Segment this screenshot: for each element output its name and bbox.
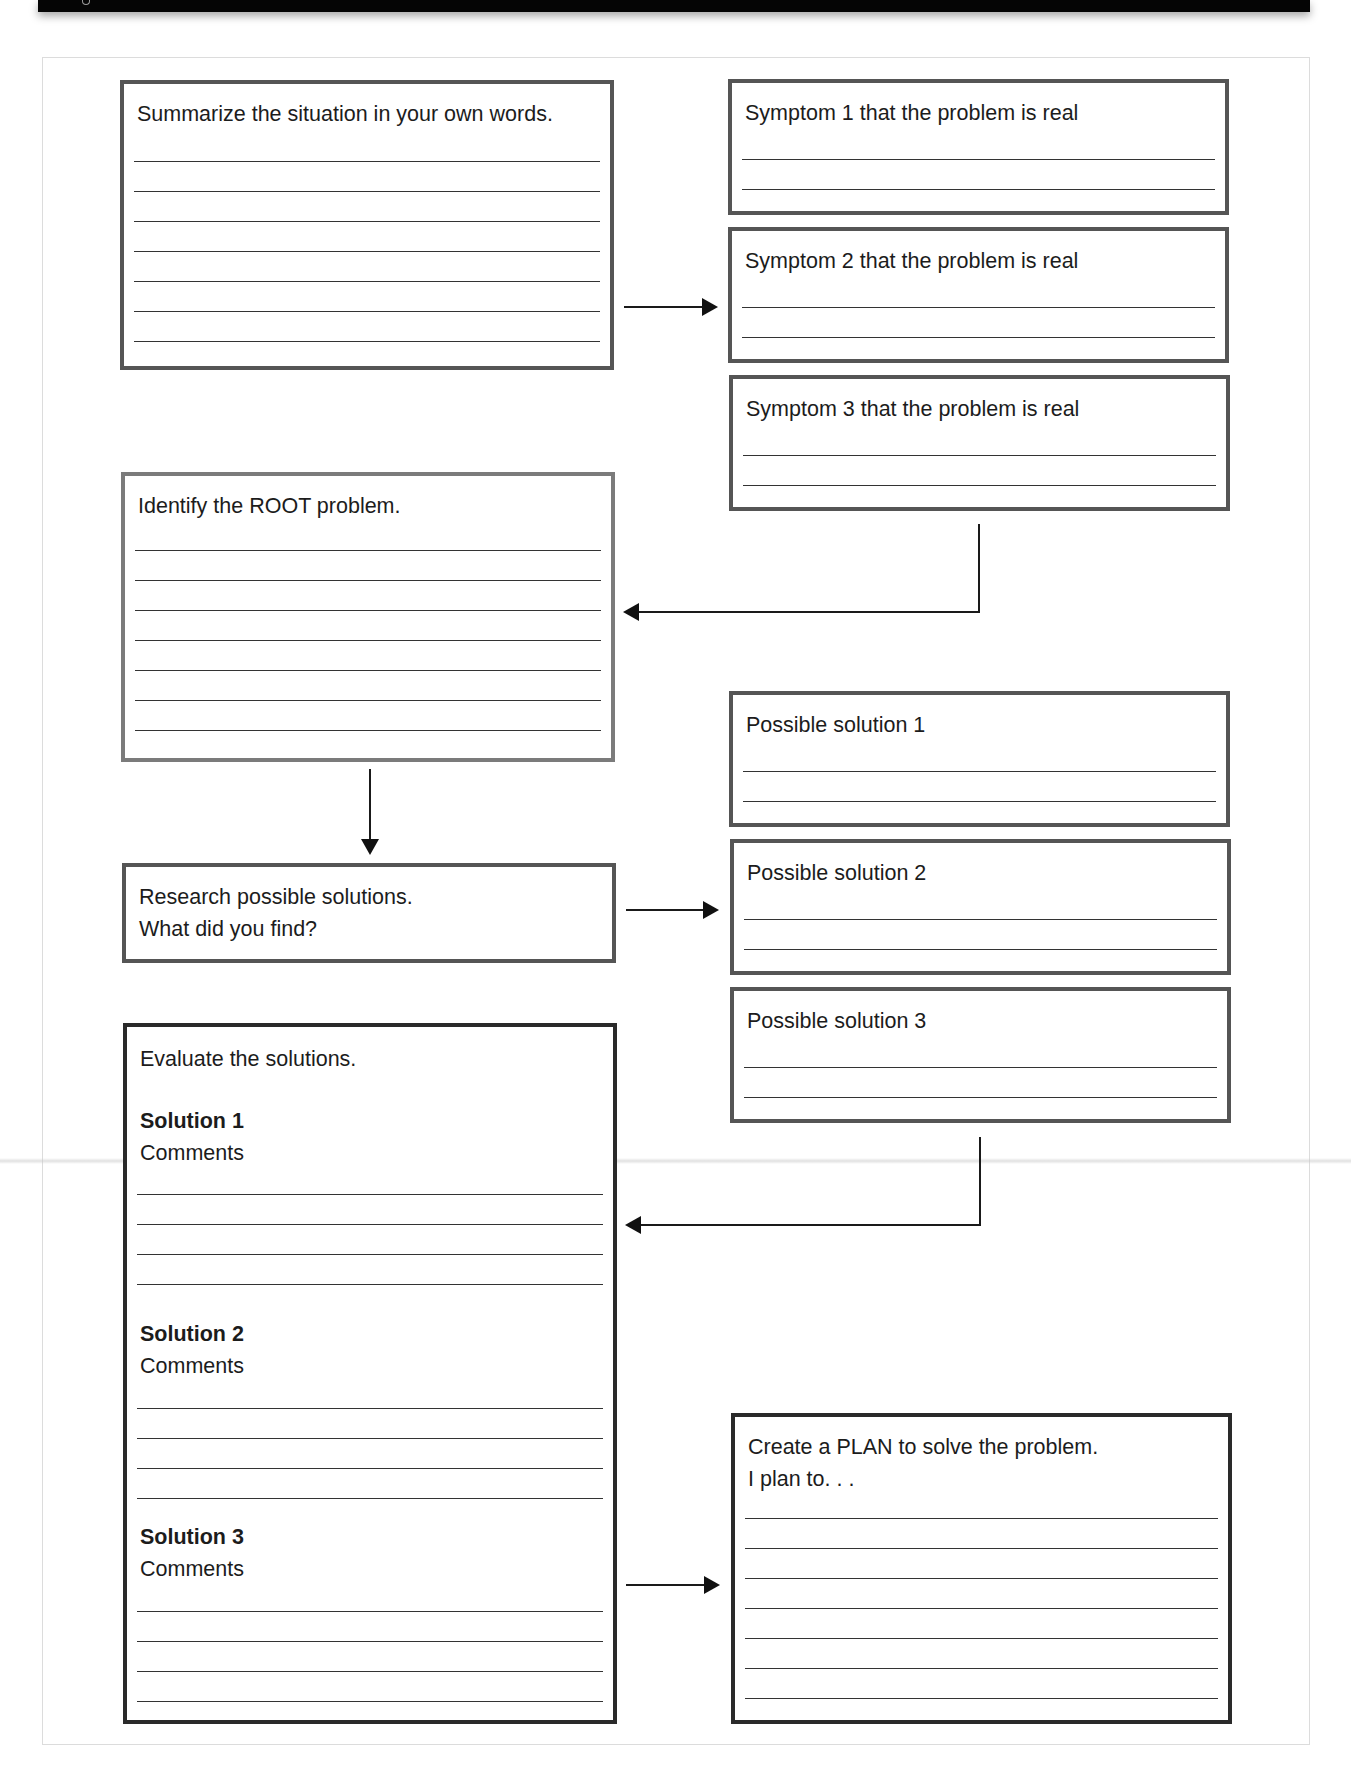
header-logo-icon <box>82 0 90 5</box>
solution-heading: Solution 1 <box>140 1105 600 1137</box>
arrow-shaft <box>626 1584 707 1586</box>
arrow-shaft <box>624 306 704 308</box>
evaluate-section-solution-1: Solution 1 Comments <box>140 1105 600 1169</box>
research-box: Research possible solutions. What did yo… <box>122 863 616 963</box>
answer-line[interactable] <box>745 1668 1218 1669</box>
answer-line[interactable] <box>745 1518 1218 1519</box>
plan-prompt-line2: I plan to. . . <box>748 1463 1215 1495</box>
answer-line[interactable] <box>135 580 601 581</box>
answer-line[interactable] <box>134 281 600 282</box>
answer-line[interactable] <box>743 455 1216 456</box>
answer-line[interactable] <box>135 640 601 641</box>
possible-solution-prompt: Possible solution 2 <box>747 857 1214 889</box>
plan-prompt-line1: Create a PLAN to solve the problem. <box>748 1431 1215 1463</box>
evaluate-box: Evaluate the solutions. Solution 1 Comme… <box>123 1023 617 1724</box>
answer-line[interactable] <box>134 161 600 162</box>
arrow-shaft <box>636 611 980 613</box>
answer-line[interactable] <box>135 730 601 731</box>
answer-line[interactable] <box>134 221 600 222</box>
answer-line[interactable] <box>135 700 601 701</box>
solution-heading: Solution 3 <box>140 1521 600 1553</box>
possible-solution-2-box: Possible solution 2 <box>730 839 1231 975</box>
answer-line[interactable] <box>134 311 600 312</box>
answer-line[interactable] <box>137 1284 603 1285</box>
answer-line[interactable] <box>745 1638 1218 1639</box>
root-problem-box: Identify the ROOT problem. <box>121 472 615 762</box>
symptom-prompt: Symptom 2 that the problem is real <box>745 245 1212 277</box>
answer-line[interactable] <box>137 1254 603 1255</box>
answer-line[interactable] <box>137 1224 603 1225</box>
symptom-3-box: Symptom 3 that the problem is real <box>729 375 1230 511</box>
answer-line[interactable] <box>744 949 1217 950</box>
answer-line[interactable] <box>745 1548 1218 1549</box>
answer-line[interactable] <box>137 1701 603 1702</box>
arrow-shaft <box>626 909 706 911</box>
arrow-shaft <box>979 1137 981 1226</box>
answer-line[interactable] <box>135 550 601 551</box>
arrow-right-icon <box>702 298 718 316</box>
arrow-down-icon <box>361 839 379 855</box>
answer-line[interactable] <box>745 1698 1218 1699</box>
answer-line[interactable] <box>134 341 600 342</box>
solution-heading: Solution 2 <box>140 1318 600 1350</box>
research-prompt-line1: Research possible solutions. <box>139 881 599 913</box>
evaluate-section-solution-2: Solution 2 Comments <box>140 1318 600 1382</box>
comments-label: Comments <box>140 1137 600 1169</box>
answer-line[interactable] <box>742 159 1215 160</box>
answer-line[interactable] <box>137 1671 603 1672</box>
summarize-box: Summarize the situation in your own word… <box>120 80 614 370</box>
answer-line[interactable] <box>745 1608 1218 1609</box>
possible-solution-3-box: Possible solution 3 <box>730 987 1231 1123</box>
arrow-right-icon <box>703 901 719 919</box>
symptom-2-box: Symptom 2 that the problem is real <box>728 227 1229 363</box>
possible-solution-1-box: Possible solution 1 <box>729 691 1230 827</box>
possible-solution-prompt: Possible solution 3 <box>747 1005 1214 1037</box>
arrow-left-icon <box>623 603 639 621</box>
symptom-prompt: Symptom 3 that the problem is real <box>746 393 1213 425</box>
answer-line[interactable] <box>743 771 1216 772</box>
answer-line[interactable] <box>135 610 601 611</box>
answer-line[interactable] <box>742 337 1215 338</box>
answer-line[interactable] <box>744 1067 1217 1068</box>
arrow-right-icon <box>704 1576 720 1594</box>
evaluate-section-solution-3: Solution 3 Comments <box>140 1521 600 1585</box>
answer-line[interactable] <box>137 1468 603 1469</box>
arrow-shaft <box>638 1224 981 1226</box>
answer-line[interactable] <box>743 801 1216 802</box>
answer-line[interactable] <box>137 1498 603 1499</box>
symptom-prompt: Symptom 1 that the problem is real <box>745 97 1212 129</box>
answer-line[interactable] <box>134 251 600 252</box>
root-problem-prompt: Identify the ROOT problem. <box>138 490 598 522</box>
summarize-prompt: Summarize the situation in your own word… <box>137 98 597 130</box>
answer-line[interactable] <box>742 189 1215 190</box>
answer-line[interactable] <box>742 307 1215 308</box>
arrow-shaft <box>978 524 980 613</box>
answer-line[interactable] <box>743 485 1216 486</box>
research-prompt-line2: What did you find? <box>139 913 599 945</box>
answer-line[interactable] <box>744 1097 1217 1098</box>
possible-solution-prompt: Possible solution 1 <box>746 709 1213 741</box>
comments-label: Comments <box>140 1553 600 1585</box>
arrow-shaft <box>369 769 371 841</box>
answer-line[interactable] <box>137 1408 603 1409</box>
answer-line[interactable] <box>134 191 600 192</box>
symptom-1-box: Symptom 1 that the problem is real <box>728 79 1229 215</box>
answer-line[interactable] <box>745 1578 1218 1579</box>
plan-box: Create a PLAN to solve the problem. I pl… <box>731 1413 1232 1724</box>
answer-line[interactable] <box>137 1194 603 1195</box>
answer-line[interactable] <box>137 1611 603 1612</box>
evaluate-prompt: Evaluate the solutions. <box>140 1043 600 1075</box>
answer-line[interactable] <box>137 1641 603 1642</box>
answer-line[interactable] <box>135 670 601 671</box>
header-bar <box>38 0 1310 12</box>
answer-line[interactable] <box>137 1438 603 1439</box>
comments-label: Comments <box>140 1350 600 1382</box>
answer-line[interactable] <box>744 919 1217 920</box>
arrow-left-icon <box>625 1216 641 1234</box>
